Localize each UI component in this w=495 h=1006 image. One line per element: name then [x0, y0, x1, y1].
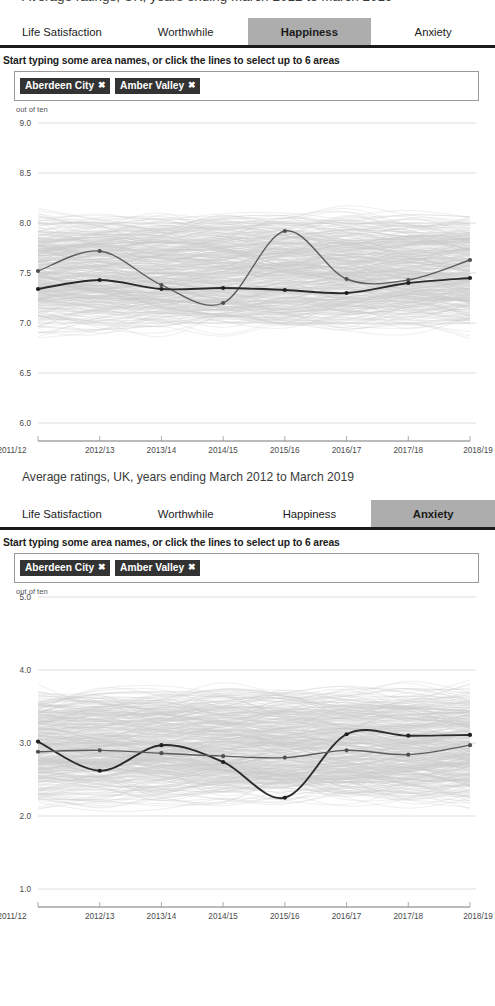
tab-label: Worthwhile [158, 508, 214, 520]
x-axis-tick-label: 2012/13 [85, 446, 115, 455]
x-axis-tick-label: 2018/19 [463, 912, 493, 921]
data-point[interactable] [159, 283, 163, 287]
tab-happiness-top[interactable]: Happiness [248, 18, 372, 45]
x-axis-tick-label: 2016/17 [332, 446, 362, 455]
area-search-input-top[interactable]: Aberdeen City ✖ Amber Valley ✖ [14, 71, 479, 101]
data-point[interactable] [159, 743, 163, 747]
y-axis-tick-label: 3.0 [20, 739, 32, 748]
data-point[interactable] [468, 733, 472, 737]
data-point[interactable] [344, 291, 348, 295]
chip-amber-valley-bottom[interactable]: Amber Valley ✖ [115, 560, 200, 576]
data-point[interactable] [344, 732, 348, 736]
tab-label: Happiness [281, 26, 338, 38]
tab-label: Happiness [283, 508, 336, 520]
chart-anxiety[interactable]: out of ten 5.04.03.02.01.02011/122012/13… [0, 583, 495, 931]
x-axis-tick-label: 2017/18 [393, 912, 423, 921]
tab-worthwhile-bottom[interactable]: Worthwhile [124, 500, 248, 527]
tabbar-bottom[interactable]: Life Satisfaction Worthwhile Happiness A… [0, 500, 495, 530]
tab-life-satisfaction-bottom[interactable]: Life Satisfaction [0, 500, 124, 527]
tab-label: Anxiety [415, 26, 452, 38]
tab-label: Life Satisfaction [22, 508, 102, 520]
data-point[interactable] [221, 760, 225, 764]
tab-anxiety-bottom[interactable]: Anxiety [371, 500, 495, 527]
x-axis-tick-label: 2014/15 [208, 912, 238, 921]
data-point[interactable] [344, 277, 348, 281]
area-search-input-bottom[interactable]: Aberdeen City ✖ Amber Valley ✖ [14, 553, 479, 583]
tab-label: Worthwhile [158, 26, 214, 38]
chip-label: Aberdeen City [25, 562, 94, 573]
chart-anxiety-svg[interactable]: 5.04.03.02.01.02011/122012/132013/142014… [0, 583, 495, 931]
x-axis-tick-label: 2014/15 [208, 446, 238, 455]
tab-label: Anxiety [413, 508, 454, 520]
data-point[interactable] [36, 287, 40, 291]
tabbar-top[interactable]: Life Satisfaction Worthwhile Happiness A… [0, 18, 495, 48]
x-axis-tick-label: 2011/12 [0, 912, 27, 921]
data-point[interactable] [283, 229, 287, 233]
y-axis-tick-label: 7.0 [20, 319, 32, 328]
y-axis-tick-label: 6.0 [20, 419, 32, 428]
data-point[interactable] [283, 756, 287, 760]
data-point[interactable] [468, 743, 472, 747]
chip-aberdeen-city-top[interactable]: Aberdeen City ✖ [20, 78, 110, 94]
x-axis-tick-label: 2016/17 [332, 912, 362, 921]
data-point[interactable] [221, 301, 225, 305]
chip-amber-valley-top[interactable]: Amber Valley ✖ [115, 78, 200, 94]
data-point[interactable] [221, 286, 225, 290]
tab-life-satisfaction-top[interactable]: Life Satisfaction [0, 18, 124, 45]
y-axis-unit-label-top: out of ten [16, 105, 48, 114]
tab-worthwhile-top[interactable]: Worthwhile [124, 18, 248, 45]
x-axis-tick-label: 2013/14 [147, 446, 177, 455]
close-icon[interactable]: ✖ [188, 563, 196, 572]
x-axis-tick-label: 2015/16 [270, 446, 300, 455]
y-axis-tick-label: 7.5 [20, 269, 32, 278]
y-axis-unit-label-bottom: out of ten [16, 587, 48, 596]
y-axis-tick-label: 8.5 [20, 169, 32, 178]
x-axis-tick-label: 2015/16 [270, 912, 300, 921]
y-axis-tick-label: 1.0 [20, 885, 32, 894]
data-point[interactable] [98, 769, 102, 773]
chart-caption: Average ratings, UK, years ending March … [0, 456, 495, 496]
y-axis-tick-label: 4.0 [20, 666, 32, 675]
data-point[interactable] [36, 269, 40, 273]
tab-happiness-bottom[interactable]: Happiness [248, 500, 372, 527]
data-point[interactable] [98, 748, 102, 752]
data-point[interactable] [36, 750, 40, 754]
background-area-lines [38, 680, 470, 811]
x-axis-tick-label: 2011/12 [0, 446, 27, 455]
y-axis-tick-label: 6.5 [20, 369, 32, 378]
close-icon[interactable]: ✖ [98, 81, 106, 90]
chart-happiness[interactable]: out of ten 9.08.58.07.57.06.56.02011/122… [0, 101, 495, 456]
x-axis-tick-label: 2013/14 [147, 912, 177, 921]
close-icon[interactable]: ✖ [188, 81, 196, 90]
data-point[interactable] [98, 278, 102, 282]
instruction-text-top: Start typing some area names, or click t… [0, 48, 495, 71]
data-point[interactable] [468, 276, 472, 280]
data-point[interactable] [36, 739, 40, 743]
chart-happiness-svg[interactable]: 9.08.58.07.57.06.56.02011/122012/132013/… [0, 101, 495, 456]
x-axis-tick-label: 2018/19 [463, 446, 493, 455]
data-point[interactable] [468, 258, 472, 262]
data-point[interactable] [406, 753, 410, 757]
chip-label: Aberdeen City [25, 80, 94, 91]
y-axis-tick-label: 8.0 [20, 219, 32, 228]
y-axis-tick-label: 2.0 [20, 812, 32, 821]
data-point[interactable] [283, 796, 287, 800]
page-root: Average ratings, UK, years ending March … [0, 0, 495, 931]
data-point[interactable] [98, 249, 102, 253]
data-point[interactable] [159, 287, 163, 291]
x-axis-tick-label: 2012/13 [85, 912, 115, 921]
data-point[interactable] [283, 288, 287, 292]
data-point[interactable] [406, 734, 410, 738]
chip-label: Amber Valley [120, 80, 184, 91]
chip-label: Amber Valley [120, 562, 184, 573]
data-point[interactable] [221, 754, 225, 758]
chip-aberdeen-city-bottom[interactable]: Aberdeen City ✖ [20, 560, 110, 576]
data-point[interactable] [344, 748, 348, 752]
tab-anxiety-top[interactable]: Anxiety [371, 18, 495, 45]
data-point[interactable] [406, 281, 410, 285]
close-icon[interactable]: ✖ [98, 563, 106, 572]
data-point[interactable] [159, 751, 163, 755]
x-axis-tick-label: 2017/18 [393, 446, 423, 455]
clipped-heading: Average ratings, UK, years ending March … [0, 0, 495, 14]
tab-label: Life Satisfaction [22, 26, 102, 38]
